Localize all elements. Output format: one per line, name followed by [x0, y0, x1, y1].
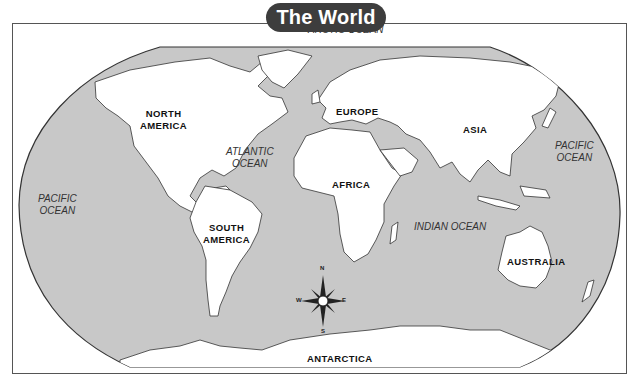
map-title: The World	[266, 3, 386, 32]
label-asia: ASIA	[463, 124, 487, 136]
label-indian-ocean: INDIAN OCEAN	[414, 221, 486, 233]
label-south-america: SOUTH AMERICA	[203, 222, 250, 246]
compass-north-label: N	[320, 265, 324, 271]
compass-south-label: S	[321, 328, 325, 334]
label-antarctica: ANTARCTICA	[307, 353, 373, 365]
label-pacific-ocean-east: PACIFIC OCEAN	[555, 140, 594, 164]
compass-east-label: E	[342, 297, 346, 303]
compass-west-label: W	[296, 297, 302, 303]
label-north-america: NORTH AMERICA	[140, 108, 187, 132]
label-atlantic-ocean: ATLANTIC OCEAN	[226, 146, 274, 170]
world-map	[0, 0, 637, 382]
label-europe: EUROPE	[336, 106, 379, 118]
label-australia: AUSTRALIA	[507, 256, 566, 268]
label-africa: AFRICA	[332, 179, 370, 191]
label-pacific-ocean-west: PACIFIC OCEAN	[38, 193, 77, 217]
